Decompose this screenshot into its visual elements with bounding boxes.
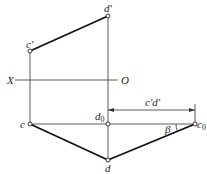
line-d-c0 <box>108 124 195 160</box>
label-c-prime: c' <box>26 39 33 50</box>
projection-diagram: d' c' X O c d0 c0 d c'd' β <box>0 0 207 174</box>
label-d: d <box>105 163 111 174</box>
label-axis-x: X <box>7 75 14 86</box>
label-angle-beta: β <box>165 124 170 135</box>
label-d-prime: d' <box>104 3 112 14</box>
point-c <box>28 122 32 126</box>
label-c0-sub: 0 <box>202 123 206 132</box>
line-c-prime-d-prime <box>30 16 108 51</box>
line-c-d <box>30 124 108 160</box>
angle-beta-arc <box>176 124 178 131</box>
label-c0: c0 <box>197 119 206 132</box>
label-d0: d0 <box>95 111 105 124</box>
arrow-left-icon <box>108 108 114 112</box>
label-axis-o: O <box>121 75 129 86</box>
point-d-prime <box>106 14 110 18</box>
label-c: c <box>20 119 25 130</box>
arrow-right-icon <box>189 108 195 112</box>
label-dimension-true-length: c'd' <box>145 97 160 108</box>
label-d0-sub: 0 <box>101 115 105 124</box>
diagram-canvas <box>0 0 207 174</box>
point-d0 <box>106 122 110 126</box>
